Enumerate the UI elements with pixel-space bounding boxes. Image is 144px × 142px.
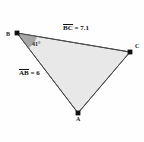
measure-value-ab: 6 [36, 69, 40, 77]
measure-label-bc: BC = 7.1 [63, 24, 89, 33]
segment-notation-bc: BC [63, 24, 73, 32]
vertex-label-c: C [135, 43, 139, 49]
angle-label-b: 41° [32, 41, 40, 47]
vertex-label-a: A [76, 116, 80, 122]
vertex-marker-c [128, 50, 133, 55]
vertex-label-b: B [6, 31, 10, 37]
vertex-marker-a [76, 111, 81, 116]
measure-label-ab: AB = 6 [19, 69, 40, 78]
segment-notation-ab: AB [19, 69, 29, 77]
vertex-marker-b [15, 31, 20, 36]
geometry-figure: B C A 41° BC = 7.1 AB = 6 [0, 0, 144, 142]
measure-value-bc: 7.1 [80, 24, 89, 32]
